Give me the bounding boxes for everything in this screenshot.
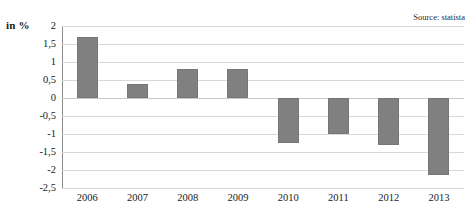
gridline	[62, 98, 464, 99]
gridline	[62, 116, 464, 117]
bar	[127, 84, 148, 98]
bar	[227, 69, 248, 98]
y-axis-tick-label: 0	[51, 93, 56, 104]
bar	[177, 69, 198, 98]
y-axis-tick-label: -0,5	[39, 111, 56, 122]
source-attribution: Source: statista	[413, 12, 465, 22]
y-axis-tick-label: -1	[47, 129, 56, 140]
y-axis-tick-label: -2,5	[39, 183, 56, 194]
y-axis-tick-label: 1	[51, 57, 56, 68]
y-axis-tick-label: 0,5	[43, 75, 56, 86]
bar	[378, 98, 399, 145]
y-axis-unit-label: in %	[6, 19, 30, 31]
x-axis-tick-label: 2009	[227, 193, 248, 204]
gridline	[62, 80, 464, 81]
x-axis-tick-label: 2011	[328, 193, 349, 204]
bar	[278, 98, 299, 143]
y-axis-tick-label: -1,5	[39, 147, 56, 158]
bar-chart: in % Source: statista 21,510,50-0,5-1-1,…	[0, 0, 473, 219]
gridline	[62, 188, 464, 189]
y-axis-tick-label: 2	[51, 21, 56, 32]
gridline	[62, 62, 464, 63]
gridline	[62, 134, 464, 135]
x-axis-tick-label: 2006	[77, 193, 98, 204]
y-axis-line	[62, 26, 63, 188]
plot-area: 21,510,50-0,5-1-1,5-2-2,5200620072008200…	[62, 26, 464, 188]
gridline	[62, 44, 464, 45]
bar	[328, 98, 349, 134]
x-axis-tick-label: 2010	[278, 193, 299, 204]
x-axis-tick-label: 2007	[127, 193, 148, 204]
bar	[428, 98, 449, 175]
gridline	[62, 152, 464, 153]
x-axis-tick-label: 2008	[177, 193, 198, 204]
x-axis-tick-label: 2012	[378, 193, 399, 204]
bar	[77, 37, 98, 98]
gridline	[62, 26, 464, 27]
x-axis-tick-label: 2013	[428, 193, 449, 204]
gridline	[62, 170, 464, 171]
y-axis-tick-label: -2	[47, 165, 56, 176]
y-axis-tick-label: 1,5	[43, 39, 56, 50]
